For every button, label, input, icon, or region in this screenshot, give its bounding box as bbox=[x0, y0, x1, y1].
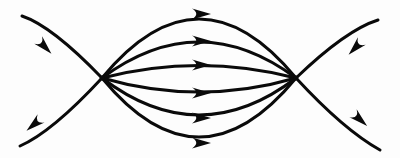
pole-node-left-pole bbox=[100, 76, 105, 81]
pole-node-right-pole bbox=[294, 76, 299, 81]
field-line-figure bbox=[0, 0, 400, 158]
figure-background bbox=[0, 0, 400, 158]
field-line-canvas bbox=[0, 0, 400, 158]
